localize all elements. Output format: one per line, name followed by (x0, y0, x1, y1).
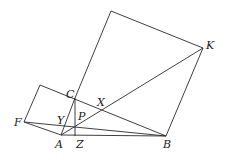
point-label-f: F (13, 116, 22, 129)
point-label-z: Z (75, 138, 84, 151)
point-label-p: P (77, 110, 86, 123)
point-label-k: K (205, 39, 215, 52)
point-label-c: C (66, 88, 75, 101)
point-label-a: A (54, 138, 63, 151)
segment-fg (24, 85, 40, 122)
segment-kb (166, 48, 203, 136)
point-label-b: B (162, 138, 171, 151)
labels: ABCKFXYPZ (13, 39, 215, 151)
diagram-canvas: ABCKFXYPZ (0, 0, 229, 158)
segments (24, 11, 203, 136)
segment-cq (75, 11, 111, 98)
segment-fb (24, 122, 166, 136)
geometry-diagram: ABCKFXYPZ (0, 0, 229, 158)
point-label-x: X (96, 96, 106, 109)
segment-qk (111, 11, 203, 48)
segment-ab (61, 135, 166, 136)
segment-gb (40, 85, 166, 136)
